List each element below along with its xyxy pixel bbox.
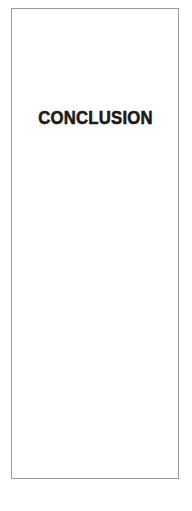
page-frame: CONCLUSION: [11, 8, 179, 479]
slide-canvas: CONCLUSION: [0, 0, 192, 511]
page-title: CONCLUSION: [38, 108, 152, 128]
section-heading-block: CONCLUSION: [12, 108, 178, 128]
